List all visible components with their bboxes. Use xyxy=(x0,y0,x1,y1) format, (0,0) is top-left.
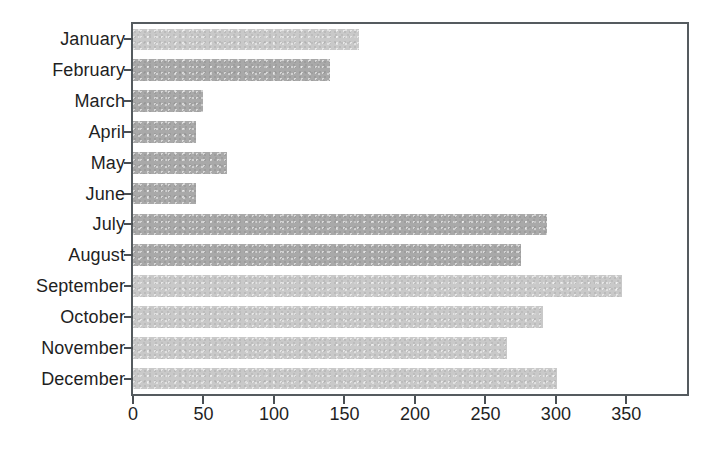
bar-march xyxy=(133,90,203,112)
x-axis-label-250: 250 xyxy=(470,405,500,423)
y-axis-label-december: December xyxy=(41,370,125,388)
x-axis-label-50: 50 xyxy=(193,405,213,423)
bar-december xyxy=(133,368,557,390)
y-axis-label-february: February xyxy=(52,61,125,79)
x-axis-tick xyxy=(273,396,275,404)
x-axis: 050100150200250300350 xyxy=(0,396,719,450)
y-axis-label-january: January xyxy=(60,30,125,48)
y-axis-label-august: August xyxy=(68,246,125,264)
bar-row xyxy=(133,275,687,297)
bar-row xyxy=(133,121,687,143)
y-axis-tick xyxy=(124,223,133,225)
y-axis-label-april: April xyxy=(88,123,125,141)
bar-row xyxy=(133,244,687,266)
y-axis-label-march: March xyxy=(74,92,125,110)
y-axis-label-may: May xyxy=(91,154,125,172)
y-axis-label-september: September xyxy=(36,277,125,295)
bar-row xyxy=(133,152,687,174)
bar-chart: JanuaryFebruaryMarchAprilMayJuneJulyAugu… xyxy=(0,0,719,450)
bar-row xyxy=(133,306,687,328)
bar-august xyxy=(133,244,521,266)
x-axis-label-0: 0 xyxy=(128,405,138,423)
x-axis-tick xyxy=(343,396,345,404)
y-axis-tick xyxy=(124,38,133,40)
y-axis-labels: JanuaryFebruaryMarchAprilMayJuneJulyAugu… xyxy=(0,24,125,394)
y-axis-tick xyxy=(124,254,133,256)
bar-row xyxy=(133,183,687,205)
bar-june xyxy=(133,183,196,205)
x-axis-tick xyxy=(414,396,416,404)
y-axis-label-november: November xyxy=(41,339,125,357)
y-axis-tick xyxy=(124,162,133,164)
y-axis-tick xyxy=(124,347,133,349)
y-axis-tick xyxy=(124,100,133,102)
y-axis-tick xyxy=(124,316,133,318)
x-axis-label-100: 100 xyxy=(259,405,289,423)
bar-row xyxy=(133,368,687,390)
x-axis-label-200: 200 xyxy=(400,405,430,423)
bars-layer xyxy=(133,24,687,394)
bar-row xyxy=(133,337,687,359)
bar-november xyxy=(133,337,507,359)
x-axis-label-150: 150 xyxy=(329,405,359,423)
x-axis-tick xyxy=(202,396,204,404)
y-axis-label-june: June xyxy=(86,185,125,203)
y-axis-tick xyxy=(124,193,133,195)
bar-january xyxy=(133,29,359,51)
x-axis-label-300: 300 xyxy=(541,405,571,423)
y-axis-tick xyxy=(124,285,133,287)
x-axis-tick xyxy=(625,396,627,404)
bar-february xyxy=(133,59,330,81)
y-axis-tick xyxy=(124,378,133,380)
x-axis-tick xyxy=(484,396,486,404)
bar-july xyxy=(133,214,547,236)
bar-row xyxy=(133,90,687,112)
bar-row xyxy=(133,214,687,236)
bar-row xyxy=(133,29,687,51)
y-axis-tick xyxy=(124,131,133,133)
bar-october xyxy=(133,306,543,328)
bar-september xyxy=(133,275,622,297)
bar-april xyxy=(133,121,196,143)
y-axis-tick xyxy=(124,69,133,71)
y-axis-label-october: October xyxy=(60,308,125,326)
bar-may xyxy=(133,152,227,174)
x-axis-tick xyxy=(555,396,557,404)
x-axis-tick xyxy=(132,396,134,404)
y-axis-label-july: July xyxy=(93,215,125,233)
bar-row xyxy=(133,59,687,81)
x-axis-label-350: 350 xyxy=(611,405,641,423)
